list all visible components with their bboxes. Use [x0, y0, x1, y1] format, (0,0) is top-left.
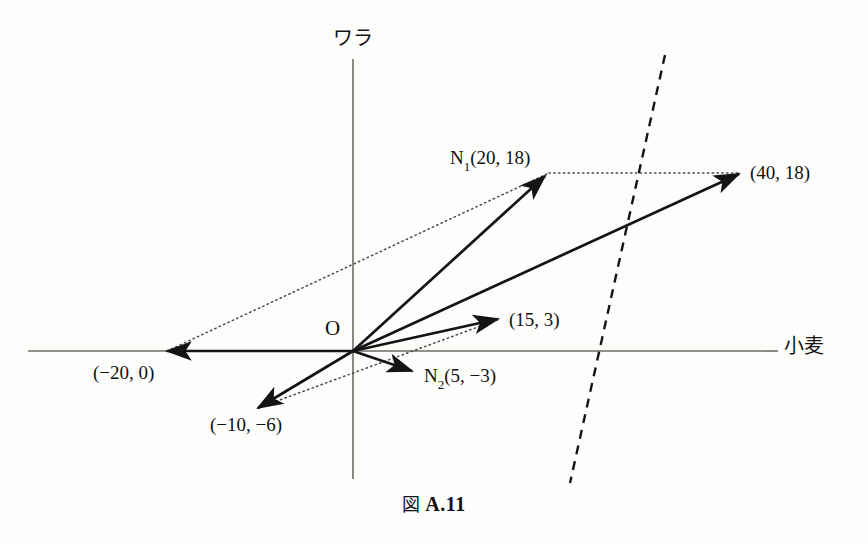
- dashed-ray-n1-n2: [570, 55, 665, 483]
- caption-prefix: 図: [402, 494, 420, 515]
- dashed-line-group: [570, 55, 665, 483]
- point-label-minus20-0: (−20, 0): [93, 363, 154, 382]
- point-label-n2-coords: (5, −3): [444, 365, 496, 386]
- point-label-n1: N1(20, 18): [450, 148, 530, 171]
- figure-container: O 小麦 ワラ N1(20, 18) (40, 18) (15, 3) N2(5…: [0, 0, 868, 544]
- axis-group: [28, 59, 762, 479]
- vector-pm10-m6: [258, 351, 353, 408]
- dotted-chord-m10-p15: [258, 320, 497, 408]
- point-label-n1-subscript: 1: [464, 159, 471, 174]
- point-label-n1-coords: (20, 18): [470, 147, 530, 168]
- point-label-40-18: (40, 18): [750, 163, 810, 182]
- point-label-minus10-minus6: (−10, −6): [210, 415, 282, 434]
- x-axis-label: 小麦: [784, 336, 824, 356]
- dotted-chord-m20-n1: [167, 173, 549, 351]
- caption-number: A.11: [425, 493, 465, 515]
- vector-diagram: [0, 0, 868, 544]
- y-axis-label: ワラ: [333, 28, 373, 48]
- point-label-n2-letter: N: [424, 365, 438, 386]
- point-label-n2: N2(5, −3): [424, 366, 496, 389]
- point-label-15-3: (15, 3): [509, 310, 560, 329]
- origin-label: O: [325, 318, 340, 339]
- point-label-n1-letter: N: [450, 147, 464, 168]
- figure-caption: 図 A.11: [0, 490, 868, 516]
- point-label-n2-subscript: 2: [438, 377, 445, 392]
